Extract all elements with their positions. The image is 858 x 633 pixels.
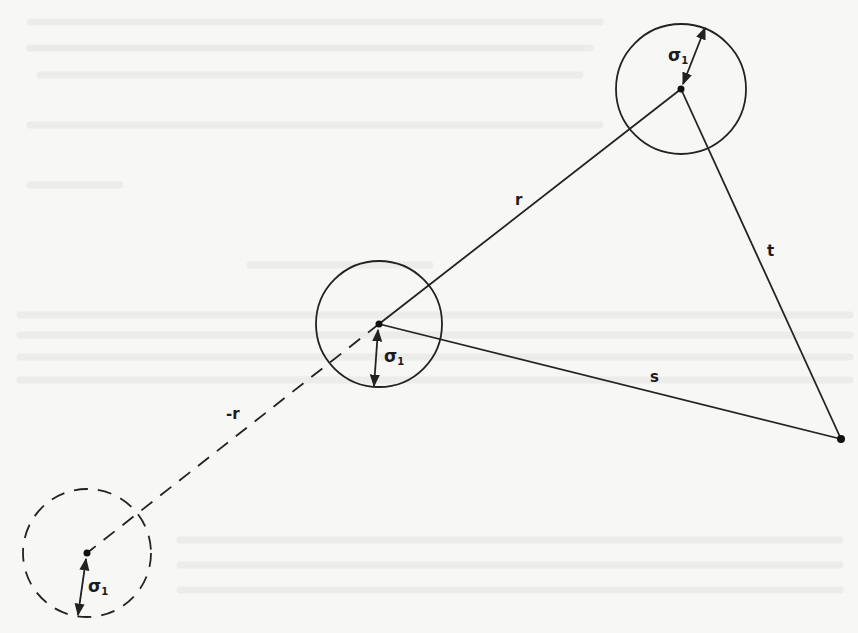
sigma-subscript: 1 <box>681 55 688 66</box>
label-s: s <box>650 370 659 385</box>
label-t: t <box>767 244 774 259</box>
point-reflected <box>84 550 91 557</box>
label-sigma-reflected: σ1 <box>88 578 108 597</box>
label-neg-r: -r <box>226 407 240 422</box>
sigma-symbol: σ <box>668 45 681 65</box>
diagram-canvas <box>0 0 858 633</box>
sigma-subscript: 1 <box>101 586 108 597</box>
point-top <box>678 86 685 93</box>
label-sigma-top: σ1 <box>668 47 688 66</box>
sigma-subscript: 1 <box>397 356 404 367</box>
sigma-symbol: σ <box>88 576 101 596</box>
radius-arrow-reflected <box>78 559 86 615</box>
point-middle <box>376 321 383 328</box>
sigma-symbol: σ <box>384 346 397 366</box>
label-sigma-middle: σ1 <box>384 348 404 367</box>
segment-t <box>681 89 841 439</box>
label-r: r <box>515 193 522 208</box>
background-show-through <box>20 22 850 590</box>
point-right <box>837 435 845 443</box>
